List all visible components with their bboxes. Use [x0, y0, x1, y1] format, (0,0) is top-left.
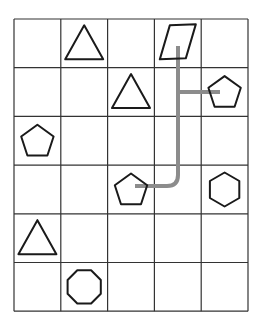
triangle-icon — [65, 25, 103, 59]
shapes-layer — [18, 24, 240, 303]
pentagon-icon — [115, 174, 147, 205]
triangle-icon — [112, 74, 150, 108]
pentagon-icon — [21, 125, 53, 156]
octagon-icon — [68, 270, 101, 303]
shape-grid-diagram — [0, 0, 262, 326]
grid-lines — [14, 19, 248, 311]
hexagon-icon — [210, 173, 239, 207]
triangle-icon — [18, 220, 56, 254]
